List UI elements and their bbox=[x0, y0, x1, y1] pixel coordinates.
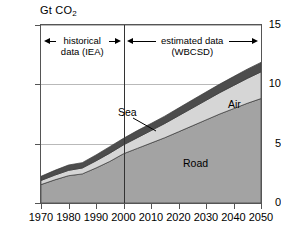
x-tick-mark-2040 bbox=[234, 204, 235, 209]
x-tick-label-2050: 2050 bbox=[241, 211, 281, 223]
x-tick-mark-2010 bbox=[151, 204, 152, 209]
y-axis-title-text: Gt CO bbox=[40, 4, 72, 16]
area-road bbox=[41, 99, 261, 203]
x-tick-mark-1970 bbox=[41, 204, 42, 209]
historical-period-label-line2: data (IEA) bbox=[22, 46, 142, 57]
historical-period-label-line1: historical bbox=[22, 35, 142, 46]
x-tick-mark-1980 bbox=[69, 204, 70, 209]
chart-root: Gt CO2 051015 19701980199020002010202020… bbox=[0, 0, 281, 238]
series-label-road: Road bbox=[183, 158, 208, 169]
series-label-air: Air bbox=[228, 99, 241, 110]
estimated-period-label: estimated data(WBCSD) bbox=[132, 35, 252, 57]
x-tick-mark-2050 bbox=[261, 204, 262, 209]
x-tick-mark-2000 bbox=[124, 204, 125, 209]
historical-period-label: historicaldata (IEA) bbox=[22, 35, 142, 57]
x-tick-mark-1990 bbox=[96, 204, 97, 209]
estimated-period-label-line1: estimated data bbox=[132, 35, 252, 46]
y-axis-title-subscript: 2 bbox=[72, 9, 77, 18]
estimated-period-label-line2: (WBCSD) bbox=[132, 46, 252, 57]
x-tick-mark-2020 bbox=[179, 204, 180, 209]
y-axis-title: Gt CO2 bbox=[40, 4, 77, 18]
x-tick-mark-2030 bbox=[206, 204, 207, 209]
sea-leader-line bbox=[132, 116, 162, 136]
